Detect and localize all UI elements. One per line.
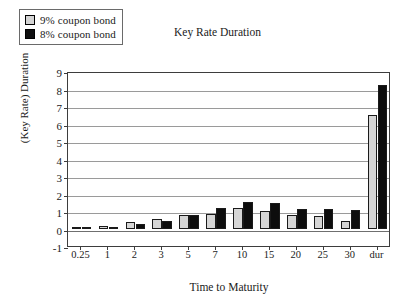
- x-tick-label: 3: [159, 249, 164, 260]
- bar: [152, 219, 162, 229]
- legend-label-8-percent: 8% coupon bond: [40, 28, 116, 40]
- x-tick-mark: [215, 247, 216, 250]
- x-tick-mark: [134, 247, 135, 250]
- x-tick-label: dur: [370, 249, 384, 260]
- x-tick-label: 20: [291, 249, 302, 260]
- x-tick-mark: [269, 247, 270, 250]
- bar: [324, 209, 334, 228]
- bar: [109, 227, 119, 229]
- bar: [368, 115, 378, 229]
- x-tick-mark: [107, 247, 108, 250]
- legend-swatch-dark-icon: [25, 29, 35, 39]
- x-tick-label: 15: [264, 249, 275, 260]
- bar: [314, 216, 324, 228]
- bar: [243, 202, 253, 228]
- y-tick-label: -1: [28, 242, 62, 254]
- y-tick-label: 7: [28, 102, 62, 114]
- bar: [378, 85, 388, 229]
- x-tick-label: 2: [132, 249, 137, 260]
- x-tick-label: 5: [186, 249, 191, 260]
- bar: [136, 224, 146, 228]
- x-tick-mark: [161, 247, 162, 250]
- bar: [260, 211, 270, 229]
- y-tick-label: 3: [28, 172, 62, 184]
- bar: [99, 226, 109, 229]
- bar: [82, 227, 92, 229]
- bar: [72, 227, 82, 229]
- x-tick-label: 10: [237, 249, 248, 260]
- legend-label-9-percent: 9% coupon bond: [40, 14, 116, 26]
- bar: [270, 203, 280, 228]
- x-tick-mark: [80, 247, 81, 250]
- y-tick-label: 1: [28, 207, 62, 219]
- x-axis-label: Time to Maturity: [67, 281, 391, 293]
- y-tick-label: 4: [28, 155, 62, 167]
- y-tick-label: 6: [28, 120, 62, 132]
- x-tick-mark: [296, 247, 297, 250]
- bar: [189, 215, 199, 229]
- bar: [216, 208, 226, 228]
- bar: [233, 208, 243, 228]
- x-tick-mark: [377, 247, 378, 250]
- chart-legend: 9% coupon bond 8% coupon bond: [19, 9, 123, 45]
- legend-item-8-percent: 8% coupon bond: [25, 27, 116, 41]
- x-tick-label: 30: [344, 249, 355, 260]
- y-tick-label: 2: [28, 190, 62, 202]
- plot-area: -10123456789: [67, 72, 390, 247]
- bar: [341, 221, 351, 229]
- x-tick-mark: [188, 247, 189, 250]
- y-tick-label: 0: [28, 225, 62, 237]
- bar: [287, 215, 297, 228]
- bar: [162, 221, 172, 229]
- x-axis-ticks: 0.25123571015202530dur: [67, 249, 390, 265]
- y-tick-label: 8: [28, 85, 62, 97]
- bar: [206, 214, 216, 229]
- x-tick-label: 1: [105, 249, 110, 260]
- x-tick-mark: [242, 247, 243, 250]
- legend-item-9-percent: 9% coupon bond: [25, 13, 116, 27]
- x-tick-label: 7: [212, 249, 217, 260]
- x-tick-mark: [323, 247, 324, 250]
- y-tick-label: 5: [28, 137, 62, 149]
- bar: [297, 209, 307, 228]
- bar: [126, 222, 136, 228]
- bar: [351, 210, 361, 228]
- bar: [179, 215, 189, 229]
- bars-layer: [68, 73, 389, 246]
- x-tick-label: 25: [317, 249, 328, 260]
- x-tick-mark: [350, 247, 351, 250]
- legend-swatch-light-icon: [25, 15, 35, 25]
- x-tick-label: 0.25: [71, 249, 89, 260]
- y-tick-label: 9: [28, 67, 62, 79]
